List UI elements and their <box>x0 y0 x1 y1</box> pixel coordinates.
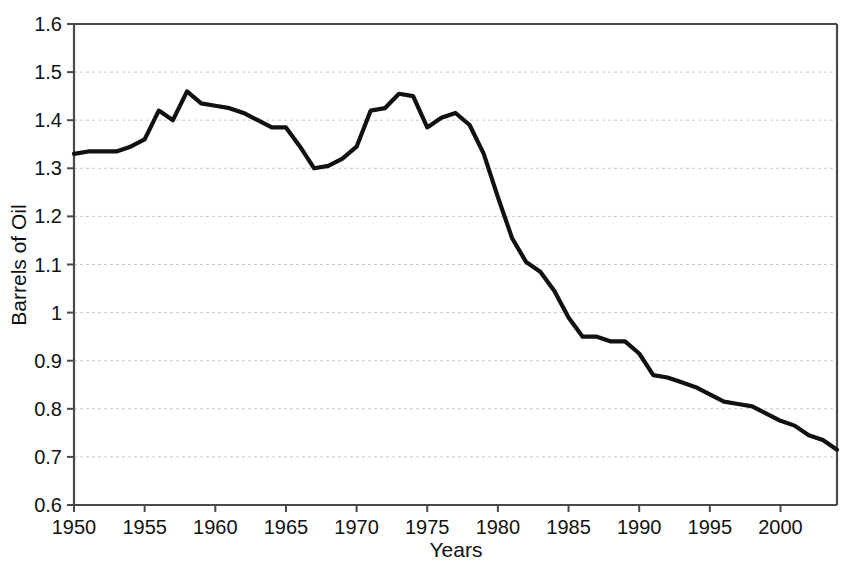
y-tick-label: 1.6 <box>34 13 62 35</box>
x-tick-label: 1950 <box>52 516 97 538</box>
y-tick-label: 0.7 <box>34 446 62 468</box>
x-tick-label: 1970 <box>334 516 379 538</box>
y-tick-label: 0.6 <box>34 494 62 516</box>
y-tick-label: 1.4 <box>34 109 62 131</box>
data-series-line <box>74 91 837 449</box>
x-tick-label: 1975 <box>405 516 450 538</box>
y-tick-label: 1.5 <box>34 61 62 83</box>
x-tick-labels-group: 1950195519601965197019751980198519901995… <box>52 516 803 538</box>
x-tick-label: 1995 <box>688 516 733 538</box>
y-axis-title: Barrels of Oil <box>7 204 30 325</box>
x-tick-label: 1960 <box>193 516 238 538</box>
x-axis-title: Years <box>430 538 483 561</box>
y-tick-label: 1.2 <box>34 205 62 227</box>
x-tick-label: 1965 <box>264 516 309 538</box>
x-tick-label: 1985 <box>546 516 591 538</box>
y-tick-label: 1.1 <box>34 254 62 276</box>
y-tick-label: 1.3 <box>34 157 62 179</box>
x-tick-label: 1955 <box>122 516 167 538</box>
y-tick-label: 1 <box>51 302 62 324</box>
y-tick-label: 0.9 <box>34 350 62 372</box>
y-tick-labels-group: 0.60.70.80.911.11.21.31.41.51.6 <box>34 13 62 516</box>
x-tick-label: 1980 <box>476 516 521 538</box>
data-series-group <box>74 91 837 449</box>
line-chart-canvas: 1950195519601965197019751980198519901995… <box>0 0 858 576</box>
y-tick-label: 0.8 <box>34 398 62 420</box>
x-tick-label: 1990 <box>617 516 662 538</box>
chart-figure: 1950195519601965197019751980198519901995… <box>0 0 858 576</box>
x-tick-label: 2000 <box>758 516 803 538</box>
